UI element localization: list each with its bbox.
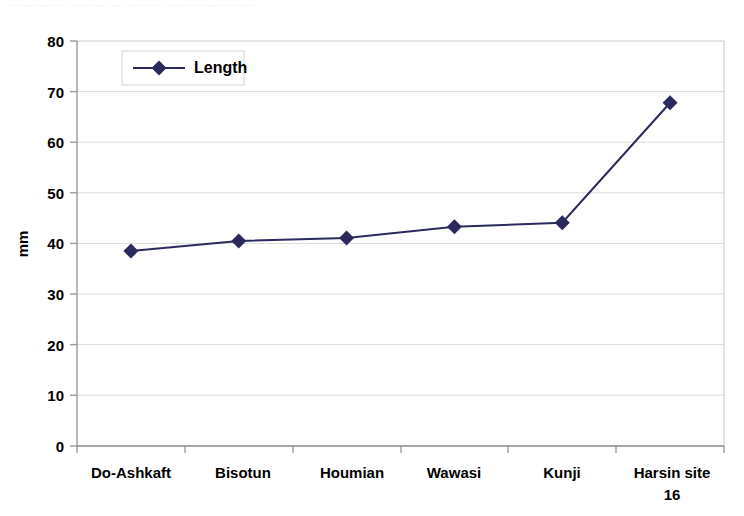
chart-figure: ·· ············ ··· ······ ···· ···· ···… bbox=[0, 0, 744, 516]
x-axis-ticks bbox=[77, 446, 724, 453]
x-tick-label-1: Bisotun bbox=[215, 464, 271, 481]
x-tick-label-4: Kunji bbox=[543, 464, 581, 481]
x-tick-label-2: Houmian bbox=[320, 464, 384, 481]
y-tick-label-30: 30 bbox=[47, 286, 64, 303]
x-axis-tick-labels: Do-Ashkaft Bisotun Houmian Wawasi Kunji … bbox=[91, 464, 710, 503]
y-axis-tick-labels: 80 70 60 50 40 30 20 10 0 bbox=[47, 33, 64, 455]
legend-entry-label: Length bbox=[194, 59, 247, 76]
y-tick-label-80: 80 bbox=[47, 33, 64, 50]
y-tick-label-0: 0 bbox=[56, 438, 64, 455]
x-tick-label-3: Wawasi bbox=[427, 464, 481, 481]
y-tick-label-40: 40 bbox=[47, 235, 64, 252]
x-tick-label-0: Do-Ashkaft bbox=[91, 464, 171, 481]
legend: Length bbox=[122, 51, 247, 85]
line-chart: 80 70 60 50 40 30 20 10 0 mm Do-Ashkaft … bbox=[0, 0, 744, 516]
x-tick-label-5-line1: Harsin site bbox=[634, 464, 711, 481]
y-axis-ticks bbox=[70, 41, 77, 446]
y-tick-label-70: 70 bbox=[47, 84, 64, 101]
y-tick-label-20: 20 bbox=[47, 337, 64, 354]
y-tick-label-50: 50 bbox=[47, 185, 64, 202]
y-axis-title: mm bbox=[14, 231, 31, 258]
x-tick-label-5-line2: 16 bbox=[664, 486, 681, 503]
y-tick-label-10: 10 bbox=[47, 387, 64, 404]
y-tick-label-60: 60 bbox=[47, 134, 64, 151]
